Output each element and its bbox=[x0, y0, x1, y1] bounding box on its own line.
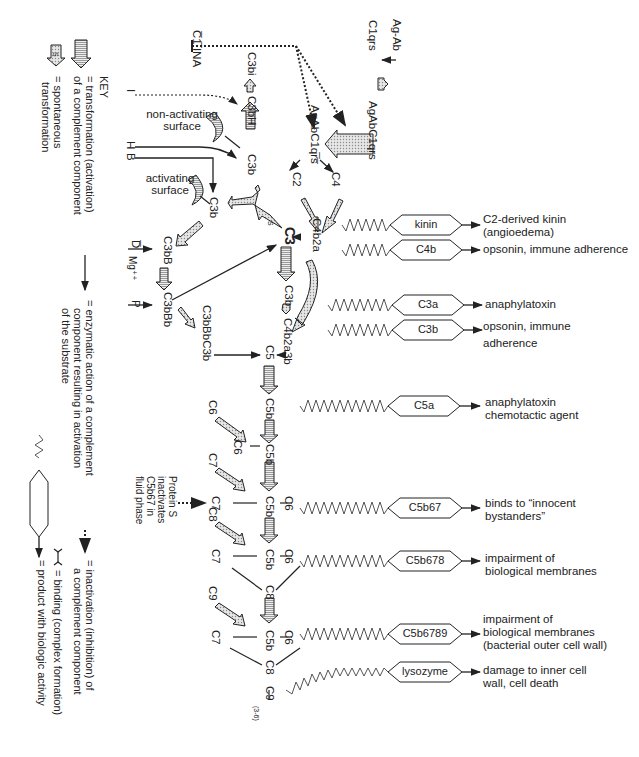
activity-c3b: opsonin, immune adherence bbox=[483, 320, 571, 350]
non-activating-surface-label: non-activating surface bbox=[142, 108, 222, 132]
c9-in-c5b6789-label: C9 bbox=[264, 686, 276, 701]
spontaneous-s-marker: S bbox=[267, 221, 274, 226]
key-spontaneous: = spontaneous transformation bbox=[40, 76, 64, 152]
key-enzymatic: = enzymatic action of a complement compo… bbox=[60, 300, 96, 476]
product-c5a-label: C5a bbox=[396, 399, 452, 411]
c3bh-label: C3bH bbox=[246, 96, 258, 125]
c9-subscript-label: (3-6) bbox=[250, 706, 262, 721]
c3-label: C3 bbox=[284, 227, 296, 245]
c2-label: C2 bbox=[291, 172, 303, 187]
b-label: B bbox=[125, 153, 137, 161]
c3bb-label: C3bB bbox=[162, 236, 174, 265]
product-c4b-label: C4b bbox=[398, 243, 454, 255]
activity-c3a: anaphylatoxin bbox=[485, 298, 556, 311]
mg-label: Mg⁺⁺ bbox=[126, 256, 138, 280]
ag-ab-label: Ag-Ab bbox=[391, 19, 403, 51]
c7-in-c5b6789-label: C7 bbox=[210, 630, 222, 645]
protein-s-note: Protein S inactivates C5b67 in fluid pha… bbox=[134, 476, 178, 524]
c3bbbc3b-label: C3bBbC3b bbox=[201, 305, 213, 361]
i-label: I bbox=[125, 89, 137, 92]
c6-input-label: C6 bbox=[207, 400, 219, 415]
c6-in-c5b678-label: C6 bbox=[283, 549, 295, 564]
h-label: H bbox=[125, 141, 137, 149]
c1qrs-label: C1qrs bbox=[367, 20, 379, 51]
c8-input-label: C8 bbox=[207, 507, 219, 522]
agabc1qrs-activated-label: AgAbC1qr̅s̅ bbox=[309, 105, 321, 164]
key-transformation: = transformation (activation) of a compl… bbox=[72, 76, 96, 215]
product-output-arrows bbox=[460, 225, 482, 672]
key-title: KEY bbox=[98, 76, 110, 98]
key-binding: = binding (complex formation) bbox=[52, 570, 64, 715]
c3b-left-label: C3b bbox=[208, 197, 220, 218]
activity-c4b: opsonin, immune adherence bbox=[483, 243, 628, 256]
c5b-in-c5b67-label: C5b bbox=[264, 496, 276, 517]
d-label: D̅ bbox=[130, 240, 142, 248]
c8-in-c5b678-label: C8 bbox=[264, 585, 276, 600]
c5b-label: C5b bbox=[264, 398, 276, 419]
c3bbb-label: C3bBb bbox=[162, 292, 174, 327]
agabc1qrs-label: AgAbC1qrs bbox=[367, 101, 379, 160]
c4-label: C4 bbox=[330, 172, 342, 187]
c8-in-c5b6789-label: C8 bbox=[264, 660, 276, 675]
activity-kinin: C2-derived kinin (angioedema) bbox=[483, 213, 566, 239]
c5b-in-c5b6-label: C5b bbox=[264, 444, 276, 465]
c3bi-label: C3bi bbox=[246, 52, 258, 76]
product-c5b6789-label: C5b6789 bbox=[397, 627, 453, 639]
product-lysozyme-label: lysozyme bbox=[397, 665, 453, 677]
p-label: P bbox=[130, 300, 142, 308]
c5b-in-c5b678-label: C5b bbox=[264, 549, 276, 570]
activity-c5b678: impairment of biological membranes bbox=[485, 552, 597, 578]
key-inactivation: = inactivation (inhibition) of a complem… bbox=[72, 560, 96, 695]
c7-input-label: C7 bbox=[207, 453, 219, 468]
activating-surface-label: activating surface bbox=[142, 172, 198, 196]
c6-in-c5b67-label: C6 bbox=[283, 496, 295, 511]
product-kinin-label: kinin bbox=[398, 218, 454, 230]
c4b2a-label: C4b2a bbox=[311, 218, 323, 252]
c3b-classical-label: C3b bbox=[283, 285, 295, 306]
c4b2a3b-label: C4b2a3b bbox=[282, 318, 294, 365]
c6-in-c5b6-label: C6 bbox=[232, 440, 244, 455]
product-c3a-label: C3a bbox=[400, 298, 456, 310]
c9-input-label: C9 bbox=[207, 586, 219, 601]
c7-in-c5b678-label: C7 bbox=[210, 549, 222, 564]
activity-c5b67: binds to “innocent bystanders” bbox=[485, 497, 576, 523]
c3b-top-label: C3b bbox=[246, 154, 258, 175]
c6-in-c5b6789-label: C6 bbox=[283, 630, 295, 645]
c5b-in-c5b6789-label: C5b bbox=[264, 630, 276, 651]
product-c3b-label: C3b bbox=[400, 323, 456, 335]
c5-label: C5 bbox=[264, 345, 276, 360]
complement-cascade-diagram: S bbox=[0, 0, 639, 757]
svg-text:S: S bbox=[52, 52, 59, 57]
zigzag-lines bbox=[286, 219, 392, 694]
product-hexagons bbox=[388, 215, 464, 682]
product-c5b678-label: C5b678 bbox=[397, 554, 453, 566]
c1-ina-label: C̅1̅ INA bbox=[191, 30, 203, 67]
activity-c5b6789: impairment of biological membranes (bact… bbox=[483, 613, 607, 652]
product-c5b67-label: C5b67 bbox=[397, 501, 453, 513]
activity-lysozyme: damage to inner cell wall, cell death bbox=[483, 664, 587, 690]
key-product: = product with biologic activity bbox=[36, 560, 48, 706]
activity-c5a: anaphylatoxin chemotactic agent bbox=[485, 396, 578, 422]
